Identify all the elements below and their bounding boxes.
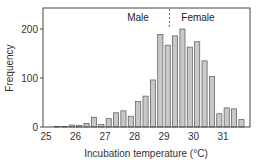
histogram-bar (180, 29, 185, 127)
x-tick-label: 27 (99, 131, 111, 142)
x-tick-label: 31 (217, 131, 229, 142)
y-tick-label: 200 (21, 24, 38, 35)
y-tick-label: 0 (32, 122, 38, 133)
y-axis-title: Frequency (4, 44, 15, 91)
histogram-bar (136, 102, 141, 127)
male-region-label: Male (127, 12, 149, 23)
histogram-bar (128, 116, 133, 127)
x-tick-label: 26 (70, 131, 82, 142)
female-region-label: Female (181, 12, 215, 23)
histogram-bar (121, 111, 126, 127)
histogram-bar (195, 42, 200, 127)
histogram-bar (143, 96, 148, 127)
histogram-chart: Male Female 0100200 25262728293031 Frequ… (0, 0, 263, 164)
histogram-bar (165, 45, 170, 127)
histogram-bar (217, 114, 222, 127)
x-tick-label: 25 (40, 131, 52, 142)
histogram-bar (172, 36, 177, 127)
histogram-bar (187, 47, 192, 127)
x-axis-title: Incubation temperature (°C) (84, 148, 208, 159)
x-axis-ticks: 25262728293031 (40, 131, 229, 142)
y-tick-label: 100 (21, 73, 38, 84)
histogram-bars (54, 29, 244, 127)
histogram-bar (113, 113, 118, 127)
y-axis-ticks: 0100200 (21, 24, 43, 133)
histogram-bar (150, 80, 155, 127)
histogram-bar (202, 61, 207, 127)
histogram-bar (84, 124, 89, 127)
histogram-bar (224, 108, 229, 127)
x-tick-label: 28 (129, 131, 141, 142)
histogram-bar (231, 109, 236, 127)
histogram-bar (209, 77, 214, 127)
histogram-bar (158, 34, 163, 127)
x-tick-label: 29 (158, 131, 170, 142)
histogram-bar (239, 120, 244, 127)
histogram-bar (91, 117, 96, 127)
x-tick-label: 30 (188, 131, 200, 142)
histogram-bar (106, 119, 111, 127)
